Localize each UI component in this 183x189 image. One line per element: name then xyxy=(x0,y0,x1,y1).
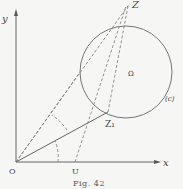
point-z-label: Z xyxy=(131,0,140,10)
dashed-lines xyxy=(16,3,130,162)
dashed-o-tangent xyxy=(16,72,80,162)
figure-caption: Fig. 42 xyxy=(73,179,105,188)
y-axis-arrow-icon xyxy=(14,9,18,16)
angle-arc-small xyxy=(55,141,58,162)
x-axis-arrow-icon xyxy=(154,160,161,164)
center-omega-label: Ω xyxy=(128,70,134,78)
y-axis-label: y xyxy=(1,13,8,24)
axes xyxy=(14,9,161,164)
point-z1-label: Z₁ xyxy=(105,119,115,129)
dashed-u-z xyxy=(75,6,126,162)
segment-o-z1 xyxy=(16,112,108,162)
angle-arc-large xyxy=(52,115,67,130)
dashed-z-z1 xyxy=(108,6,128,112)
point-u-label: U xyxy=(72,167,79,176)
circle-c-label: (c) xyxy=(165,95,175,103)
figure-42-diagram: y x O U Z Z₁ Ω (c) Fig. 42 xyxy=(0,0,183,189)
x-axis-label: x xyxy=(163,157,169,168)
origin-label: O xyxy=(9,167,16,176)
